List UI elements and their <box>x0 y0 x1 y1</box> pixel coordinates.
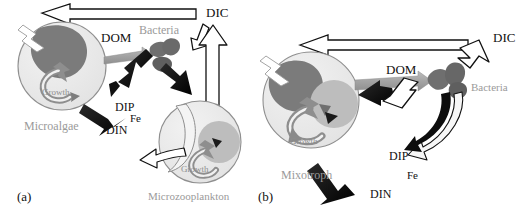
microalgae-label: Microalgae <box>24 120 79 132</box>
mixotroph-cell <box>260 52 359 148</box>
panel-a-bacteria-label: Bacteria <box>139 24 179 36</box>
panel-a-growth-algae-label: Growth <box>42 88 70 97</box>
microzooplankton-label: Microzooplankton <box>148 191 229 202</box>
panel-b-din-label: DIN <box>370 188 391 200</box>
panel-a-fe-label: Fe <box>130 113 141 124</box>
panel-b-growth-label: Growth <box>290 137 318 146</box>
panel-a-tag: (a) <box>17 190 31 203</box>
panel-a-din-label: DIN <box>106 124 127 136</box>
panel-b-bacteria-label: Bacteria <box>471 82 508 93</box>
panel-b-dip-label: DIP <box>389 150 408 162</box>
panel-a-growth-zoo-label: Growth <box>181 165 209 174</box>
diagram-graphics <box>0 0 523 217</box>
mixotroph-label: Mixotroph <box>281 169 332 181</box>
panel-b-dic-to-mixotroph-arrow <box>300 35 468 55</box>
panel-a-dic-to-algae-arrow <box>42 4 196 24</box>
panel-a-dom-label: DOM <box>101 31 131 44</box>
panel-b-dic-label: DIC <box>493 31 515 44</box>
panel-b-fe-label: Fe <box>407 170 418 181</box>
panel-b-curved-black-arrow <box>404 92 451 152</box>
panel-a-grazing-arrow <box>160 63 192 95</box>
panel-a-dic-label: DIC <box>206 6 228 19</box>
figure-canvas: DOM Bacteria DIC DIP Fe DIN Growth Growt… <box>0 0 523 217</box>
panel-b-tag: (b) <box>258 190 273 203</box>
panel-b-dom-label: DOM <box>386 63 416 76</box>
